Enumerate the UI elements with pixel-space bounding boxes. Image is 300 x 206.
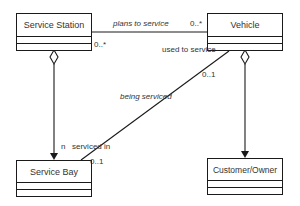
multiplicity-vehicle-left: 0..*: [190, 20, 202, 28]
class-name: Vehicle: [208, 14, 282, 37]
multiplicity-vehicle-bottom: 0..1: [202, 71, 215, 79]
multiplicity-bay: 0..1: [90, 158, 103, 166]
class-name: Service Station: [17, 14, 91, 37]
class-name: Service Bay: [17, 161, 91, 183]
uml-class-diagram: Service Station Vehicle Service Bay Cust…: [0, 0, 300, 206]
multiplicity-n: n: [61, 143, 65, 151]
aggregation-diamond-vehicle: [241, 50, 249, 64]
operations-compartment: [208, 188, 282, 194]
role-used-to-service: used to service: [162, 46, 216, 54]
class-vehicle[interactable]: Vehicle: [207, 13, 283, 51]
class-service-bay[interactable]: Service Bay: [16, 160, 92, 197]
operations-compartment: [17, 44, 91, 50]
class-customer-owner[interactable]: Customer/Owner: [207, 158, 283, 195]
role-serviced-in: serviced in: [72, 143, 110, 151]
arrowhead-to-service-bay: [50, 153, 58, 160]
multiplicity-station-right: 0..*: [94, 41, 106, 49]
attributes-compartment: [208, 181, 282, 188]
label-being-serviced: being serviced: [120, 93, 172, 101]
attributes-compartment: [17, 37, 91, 44]
attributes-compartment: [17, 183, 91, 190]
aggregation-diamond-station: [50, 50, 58, 64]
attributes-compartment: [208, 37, 282, 44]
operations-compartment: [208, 44, 282, 50]
class-service-station[interactable]: Service Station: [16, 13, 92, 51]
operations-compartment: [17, 190, 91, 196]
class-name: Customer/Owner: [208, 159, 282, 181]
arrowhead-to-customer-owner: [241, 151, 249, 158]
label-plans-to-service: plans to service: [113, 20, 169, 28]
